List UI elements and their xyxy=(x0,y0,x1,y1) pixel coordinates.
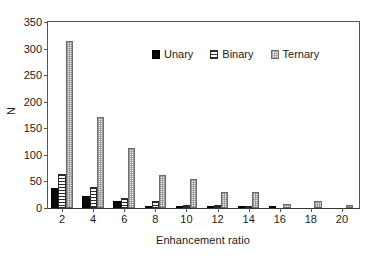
y-tick-label: 300 xyxy=(4,43,42,54)
x-tick-mark xyxy=(342,208,343,212)
bar-binary-8 xyxy=(152,201,159,208)
bar-binary-6 xyxy=(121,198,128,208)
bar-unary-6 xyxy=(113,201,120,208)
x-tick-label: 2 xyxy=(47,214,77,225)
bar-unary-2 xyxy=(51,188,58,208)
bar-ternary-16 xyxy=(283,204,290,208)
x-tick-mark xyxy=(280,208,281,212)
bar-binary-10 xyxy=(183,205,190,208)
bar-ternary-14 xyxy=(252,192,259,208)
x-axis-label: Enhancement ratio xyxy=(45,234,361,246)
bar-ternary-18 xyxy=(314,201,321,208)
bar-unary-10 xyxy=(176,206,183,208)
legend-item-ternary: Ternary xyxy=(271,49,320,60)
legend-label-ternary: Ternary xyxy=(283,49,320,60)
legend-swatch-unary-icon xyxy=(152,50,160,59)
y-tick-label: 200 xyxy=(4,96,42,107)
y-tick-mark xyxy=(44,49,48,50)
bar-ternary-10 xyxy=(190,179,197,208)
x-tick-mark xyxy=(311,208,312,212)
x-tick-mark xyxy=(249,208,250,212)
bar-ternary-6 xyxy=(128,148,135,208)
y-tick-mark xyxy=(44,75,48,76)
x-tick-label: 18 xyxy=(296,214,326,225)
bar-unary-4 xyxy=(82,196,89,208)
x-tick-label: 8 xyxy=(140,214,170,225)
bar-unary-16 xyxy=(269,206,276,208)
bar-ternary-4 xyxy=(97,117,104,208)
x-tick-mark xyxy=(93,208,94,212)
y-tick-label: 100 xyxy=(4,149,42,160)
y-tick-label: 350 xyxy=(4,17,42,28)
y-tick-mark xyxy=(44,155,48,156)
x-tick-mark xyxy=(62,208,63,212)
legend-label-unary: Unary xyxy=(164,49,193,60)
y-tick-mark xyxy=(44,102,48,103)
y-tick-label: 250 xyxy=(4,70,42,81)
y-tick-mark xyxy=(44,208,48,209)
x-tick-label: 6 xyxy=(109,214,139,225)
bar-ternary-12 xyxy=(221,192,228,208)
x-tick-mark xyxy=(186,208,187,212)
x-tick-label: 14 xyxy=(234,214,264,225)
x-tick-label: 20 xyxy=(327,214,357,225)
legend-swatch-binary-icon xyxy=(210,50,218,59)
x-tick-mark xyxy=(124,208,125,212)
y-tick-label: 150 xyxy=(4,123,42,134)
y-tick-mark xyxy=(44,128,48,129)
bar-unary-14 xyxy=(238,206,245,208)
y-tick-mark xyxy=(44,22,48,23)
y-tick-mark xyxy=(44,181,48,182)
x-tick-label: 16 xyxy=(265,214,295,225)
legend-swatch-ternary-icon xyxy=(271,50,279,59)
x-tick-mark xyxy=(155,208,156,212)
bar-binary-14 xyxy=(245,206,252,208)
bar-chart-figure: N Enhancement ratio 05010015020025030035… xyxy=(0,0,367,258)
bar-ternary-20 xyxy=(346,205,353,208)
chart-legend: Unary Binary Ternary xyxy=(152,49,319,60)
legend-label-binary: Binary xyxy=(222,49,253,60)
x-tick-label: 12 xyxy=(203,214,233,225)
y-tick-label: 0 xyxy=(4,203,42,214)
bar-binary-2 xyxy=(58,174,65,208)
bar-unary-12 xyxy=(207,206,214,208)
bar-unary-8 xyxy=(145,206,152,208)
x-tick-label: 4 xyxy=(78,214,108,225)
legend-item-binary: Binary xyxy=(210,49,253,60)
legend-item-unary: Unary xyxy=(152,49,193,60)
x-tick-mark xyxy=(218,208,219,212)
bar-binary-4 xyxy=(90,187,97,208)
bar-binary-12 xyxy=(214,205,221,208)
x-tick-label: 10 xyxy=(171,214,201,225)
bar-ternary-8 xyxy=(159,175,166,208)
y-tick-label: 50 xyxy=(4,176,42,187)
bar-ternary-2 xyxy=(66,41,73,208)
